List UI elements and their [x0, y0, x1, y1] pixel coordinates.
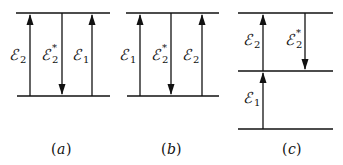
label-sub: 1 [130, 54, 136, 65]
diagram-a: ℰ 2 ℰ 2 * ℰ 1 ( a ) [9, 13, 110, 157]
arrowhead-icon [27, 14, 34, 25]
caption-paren: ) [66, 141, 71, 157]
label-e: ℰ [243, 89, 254, 107]
label-sub: 2 [193, 54, 199, 65]
label-e: ℰ [285, 31, 296, 49]
energy-level-diagrams: ℰ 2 ℰ 2 * ℰ 1 ( a ) ℰ 1 ℰ 2 * ℰ 2 ( b ) [0, 0, 343, 165]
label-sub: 1 [254, 97, 260, 108]
label-e: ℰ [151, 46, 162, 64]
caption-b: b [167, 141, 176, 157]
diagram-c: ℰ 2 ℰ 2 * ℰ 1 ( c ) [238, 13, 333, 157]
label-e: ℰ [9, 46, 20, 64]
label-e: ℰ [119, 46, 130, 64]
label-sub: 2 [296, 39, 302, 50]
caption-paren: ) [176, 141, 181, 157]
label-sub: 2 [20, 54, 26, 65]
caption-paren: ) [296, 141, 301, 157]
label-sup: * [296, 27, 301, 38]
label-e: ℰ [72, 46, 83, 64]
caption-a: a [57, 141, 65, 157]
caption-c: c [288, 141, 296, 157]
label-e: ℰ [182, 46, 193, 64]
label-e: ℰ [41, 46, 52, 64]
label-sub: 2 [162, 54, 168, 65]
arrowhead-icon [260, 14, 267, 25]
label-e: ℰ [243, 31, 254, 49]
arrowhead-icon [137, 14, 144, 25]
label-sup: * [52, 42, 57, 53]
arrowhead-icon [89, 14, 96, 25]
caption-paren: ( [51, 141, 56, 157]
label-sub: 1 [83, 54, 89, 65]
caption-paren: ( [282, 141, 287, 157]
diagram-b: ℰ 1 ℰ 2 * ℰ 2 ( b ) [119, 13, 219, 157]
label-sup: * [162, 42, 167, 53]
arrowhead-icon [302, 59, 309, 70]
arrowhead-icon [59, 84, 66, 95]
arrowhead-icon [199, 14, 206, 25]
arrowhead-icon [260, 72, 267, 83]
caption-paren: ( [161, 141, 166, 157]
label-sub: 2 [52, 54, 58, 65]
label-sub: 2 [254, 39, 260, 50]
arrowhead-icon [168, 84, 175, 95]
